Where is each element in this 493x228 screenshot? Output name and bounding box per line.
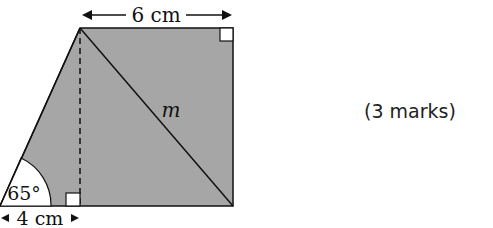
right-angle-marker-top (220, 28, 233, 41)
diagonal-label: m (162, 98, 181, 122)
top-length-label: 6 cm (131, 3, 180, 27)
bottom-length-label: 4 cm (17, 207, 64, 228)
right-angle-marker-bottom (66, 193, 80, 206)
marks-label: (3 marks) (364, 100, 456, 122)
arrowhead-right-icon (222, 10, 232, 20)
bottom-arrowhead-right-icon (71, 214, 79, 222)
bottom-arrowhead-left-icon (1, 214, 9, 222)
angle-label: 65° (7, 182, 41, 204)
trapezium-figure: 6 cm m 65° 4 cm (0, 0, 250, 228)
arrowhead-left-icon (82, 10, 92, 20)
